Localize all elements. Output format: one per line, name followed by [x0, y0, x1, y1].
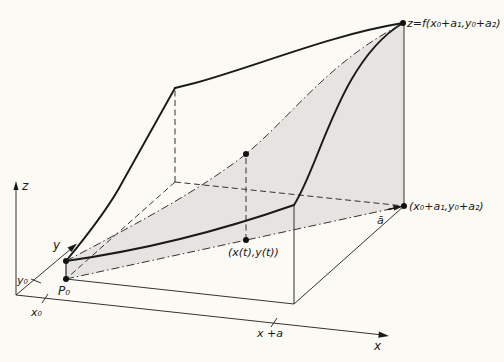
base-front-edge — [66, 279, 294, 304]
direction-vector-label: ā — [377, 214, 384, 227]
point-end — [401, 203, 407, 209]
y0-tick-label: y₀ — [16, 274, 29, 287]
point-p0 — [63, 276, 69, 282]
end-point-label: (x₀+a₁,y₀+a₂) — [409, 200, 484, 213]
param-point-label: (x(t),y(t)) — [228, 246, 279, 259]
z-axis-arrowhead-icon — [14, 181, 19, 190]
point-xt-yt — [243, 237, 249, 243]
surface-diagram: z y x y₀ x₀ x +a P₀ z=f(x₀+a₁,y₀+a₂) (x₀… — [0, 0, 504, 362]
point-f-p0 — [63, 258, 69, 264]
x0-tick-label: x₀ — [30, 306, 43, 319]
p0-label: P₀ — [58, 284, 70, 298]
x-axis-label: x — [373, 339, 382, 353]
shaded-section-surface — [66, 23, 404, 279]
point-f-xt-yt — [243, 151, 249, 157]
top-value-label: z=f(x₀+a₁,y₀+a₂) — [406, 17, 501, 30]
x-axis-arrowhead-icon — [378, 332, 389, 338]
x-axis — [16, 295, 383, 335]
y-axis-label: y — [52, 238, 61, 252]
x-plus-a-tick-label: x +a — [256, 327, 283, 340]
z-axis-label: z — [21, 179, 29, 193]
point-top-value — [400, 20, 406, 26]
